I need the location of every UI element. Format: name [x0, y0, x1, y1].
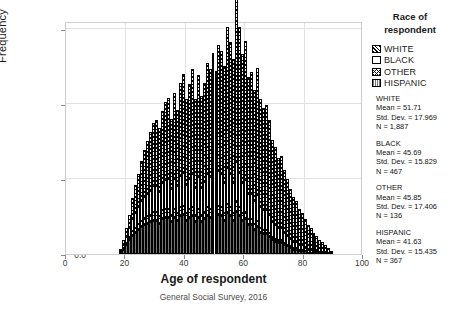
stat-group: BLACKMean = 45.69Std. Dev. = 15.829N = 4…	[376, 139, 453, 177]
legend: Race of respondent WHITEBLACKOTHERHISPAN…	[372, 10, 452, 89]
stat-std-dev: Std. Dev. = 15.435	[376, 247, 453, 256]
x-tick-mark	[303, 255, 304, 259]
legend-item-label: BLACK	[384, 55, 414, 65]
stat-group-name: BLACK	[376, 139, 453, 148]
stat-n: N = 367	[376, 256, 453, 265]
vertical-lines-swatch	[372, 79, 381, 87]
stat-group: OTHERMean = 45.85Std. Dev. = 17.406N = 1…	[376, 183, 453, 221]
stat-mean: Mean = 45.69	[376, 148, 453, 157]
stat-group: WHITEMean = 51.71Std. Dev. = 17.969N = 1…	[376, 94, 453, 132]
x-tick-mark	[243, 255, 244, 259]
legend-title-line2: respondent	[384, 24, 436, 35]
stat-mean: Mean = 41.63	[376, 237, 453, 246]
group-statistics: WHITEMean = 51.71Std. Dev. = 17.969N = 1…	[376, 94, 453, 273]
stat-group-name: OTHER	[376, 183, 453, 192]
legend-title-line1: Race of	[393, 11, 427, 22]
dots-swatch	[372, 56, 381, 64]
stat-n: N = 467	[376, 167, 453, 176]
legend-item[interactable]: BLACK	[372, 55, 452, 66]
figure-caption: General Social Survey, 2016	[65, 292, 362, 302]
x-tick-label: 40	[164, 258, 204, 268]
legend-item-label: OTHER	[384, 67, 416, 77]
x-tick-mark	[124, 255, 125, 259]
x-tick-mark	[184, 255, 185, 259]
legend-item-label: HISPANIC	[384, 78, 427, 88]
x-tick-label: 20	[104, 258, 144, 268]
x-tick-label: 80	[283, 258, 323, 268]
stat-std-dev: Std. Dev. = 15.829	[376, 157, 453, 166]
stat-group-name: WHITE	[376, 94, 453, 103]
x-tick-mark	[362, 255, 363, 259]
stat-std-dev: Std. Dev. = 17.406	[376, 202, 453, 211]
stat-std-dev: Std. Dev. = 17.969	[376, 113, 453, 122]
diagonal-hatch-swatch	[372, 45, 381, 53]
legend-item-label: WHITE	[384, 44, 414, 54]
stat-n: N = 1,887	[376, 122, 453, 131]
bar-segment-white	[330, 251, 333, 254]
histogram-bar	[330, 251, 333, 254]
x-axis-label: Age of respondent	[65, 272, 362, 286]
stat-mean: Mean = 45.85	[376, 193, 453, 202]
legend-item[interactable]: HISPANIC	[372, 78, 452, 89]
legend-items: WHITEBLACKOTHERHISPANIC	[372, 43, 452, 89]
legend-item[interactable]: OTHER	[372, 66, 452, 77]
x-tick-mark	[65, 255, 66, 259]
stat-mean: Mean = 51.71	[376, 103, 453, 112]
cross-hatch-swatch	[372, 68, 381, 76]
legend-title: Race of respondent	[372, 10, 448, 36]
histogram-bars	[66, 23, 361, 254]
stat-n: N = 136	[376, 211, 453, 220]
plot-area	[65, 22, 362, 255]
y-axis-label: Frequency	[0, 0, 8, 96]
x-tick-label: 0	[45, 258, 85, 268]
legend-item[interactable]: WHITE	[372, 43, 452, 54]
x-tick-label: 60	[223, 258, 263, 268]
histogram-figure: Frequency 0.050.0100.0150.0 020406080100…	[0, 0, 453, 313]
stat-group: HISPANICMean = 41.63Std. Dev. = 15.435N …	[376, 228, 453, 266]
stat-group-name: HISPANIC	[376, 228, 453, 237]
